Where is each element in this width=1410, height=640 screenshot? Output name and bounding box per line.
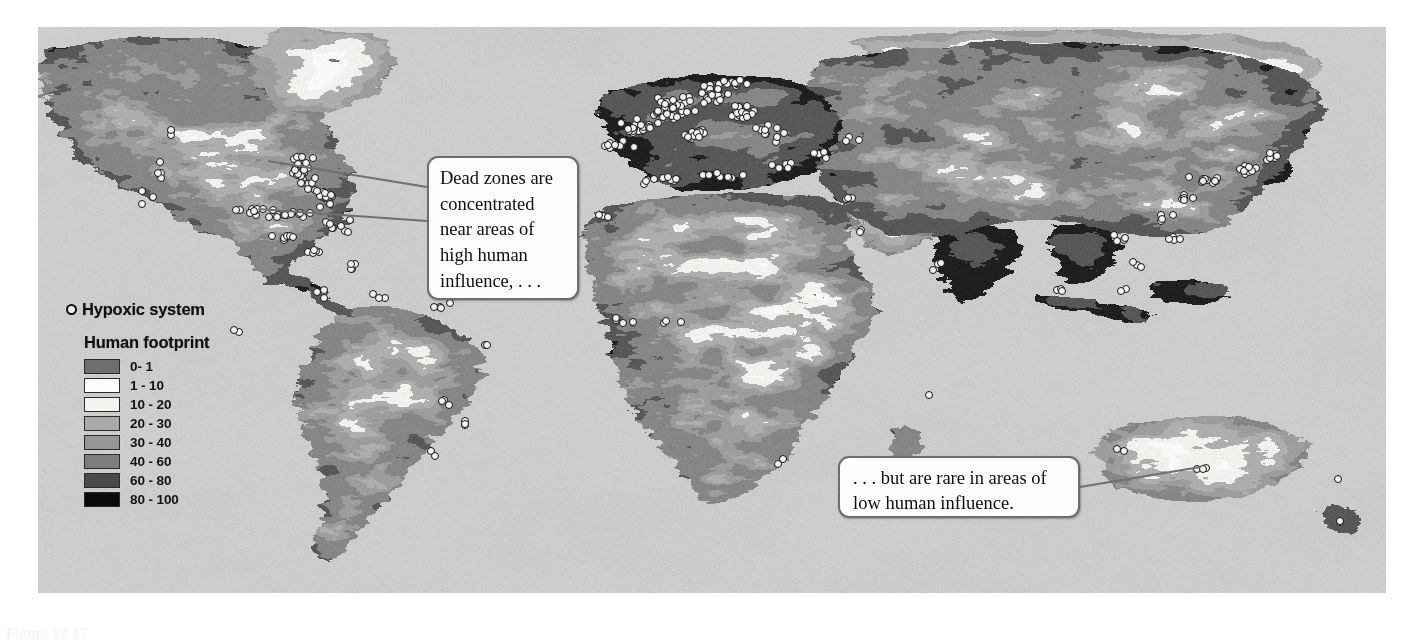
hypoxic-system-marker (1169, 211, 1177, 219)
hypoxic-system-marker (446, 299, 454, 307)
hypoxic-system-marker (844, 194, 852, 202)
hypoxic-system-marker (695, 133, 703, 141)
hypoxic-system-marker (664, 173, 672, 181)
hypoxic-system-marker (739, 171, 747, 179)
legend-class-label: 10 - 20 (130, 397, 171, 412)
hypoxic-system-marker (445, 401, 453, 409)
hypoxic-system-marker (700, 99, 708, 107)
legend-swatch (84, 378, 120, 393)
hypoxic-system-marker (629, 318, 637, 326)
hypoxic-system-marker (654, 119, 662, 127)
legend-class-label: 1 - 10 (130, 378, 164, 393)
hypoxic-system-marker (320, 294, 328, 302)
hypoxic-system-marker (289, 233, 297, 241)
hypoxic-system-marker (691, 107, 699, 115)
hypoxic-system-marker (780, 129, 788, 137)
hypoxic-system-icon (66, 304, 77, 315)
hypoxic-system-marker (752, 124, 760, 132)
hypoxic-system-marker (1189, 194, 1197, 202)
legend-swatch (84, 359, 120, 374)
legend-row: 0- 1 (84, 359, 281, 374)
low-influence-callout: . . . but are rare in areas of low human… (838, 456, 1080, 518)
hypoxic-system-marker (761, 126, 769, 134)
legend-class-label: 80 - 100 (130, 492, 179, 507)
hypoxic-system-marker (1158, 215, 1166, 223)
hypoxic-system-marker (604, 213, 612, 221)
hypoxic-system-marker (316, 203, 324, 211)
hypoxic-system-marker (654, 107, 662, 115)
hypoxic-system-marker (265, 213, 273, 221)
legend-class-label: 0- 1 (130, 359, 153, 374)
hypoxic-system-marker (138, 187, 146, 195)
hypoxic-system-marker (268, 232, 276, 240)
legend-swatch (84, 435, 120, 450)
hypoxic-system-marker (724, 173, 732, 181)
legend-row: 10 - 20 (84, 397, 281, 412)
hypoxic-system-marker (673, 113, 681, 121)
hypoxic-system-marker (662, 317, 670, 325)
hypoxic-system-marker (1185, 173, 1193, 181)
hypoxic-system-marker (431, 452, 439, 460)
legend-class-label: 30 - 40 (130, 435, 171, 450)
hypoxic-system-marker (642, 177, 650, 185)
hypoxic-system-marker (1266, 149, 1274, 157)
legend-row: 30 - 40 (84, 435, 281, 450)
hypoxic-system-marker (1113, 237, 1121, 245)
hypoxic-system-marker (1273, 152, 1281, 160)
hypoxic-system-marker (1137, 263, 1145, 271)
hypoxic-system-marker (232, 206, 240, 214)
figure-caption: Figure 12.17 (6, 625, 1006, 640)
hypoxic-system-marker (1334, 475, 1342, 483)
hypoxic-system-marker (705, 171, 713, 179)
legend-row: 20 - 30 (84, 416, 281, 431)
hypoxic-system-marker (1211, 177, 1219, 185)
hypoxic-system-marker (925, 391, 933, 399)
hypoxic-system-marker (779, 455, 787, 463)
legend-class-label: 20 - 30 (130, 416, 171, 431)
hypoxic-system-marker (313, 187, 321, 195)
figure-container: Hypoxic system Human footprint 0- 11 - 1… (0, 0, 1410, 640)
legend-class-label: 40 - 60 (130, 454, 171, 469)
hypoxic-system-marker (713, 169, 721, 177)
legend-hypoxic-label: Hypoxic system (82, 300, 205, 319)
legend-swatch (84, 416, 120, 431)
hypoxic-system-marker (156, 158, 164, 166)
hypoxic-system-marker (677, 318, 685, 326)
legend-swatch (84, 492, 120, 507)
hypoxic-system-marker (820, 148, 828, 156)
legend-class-list: 0- 11 - 1010 - 2020 - 3030 - 4040 - 6060… (66, 359, 281, 507)
hypoxic-system-marker (773, 124, 781, 132)
hypoxic-system-marker (1117, 287, 1125, 295)
hypoxic-system-marker (743, 80, 751, 88)
hypoxic-system-marker (430, 303, 438, 311)
hypoxic-system-marker (326, 200, 334, 208)
legend-row: 60 - 80 (84, 473, 281, 488)
hypoxic-system-marker (1180, 196, 1188, 204)
hypoxic-system-marker (716, 96, 724, 104)
hypoxic-system-marker (650, 175, 658, 183)
legend-hypoxic-system: Hypoxic system (66, 300, 281, 319)
hypoxic-system-marker (313, 288, 321, 296)
hypoxic-system-marker (346, 216, 354, 224)
legend-swatch (84, 454, 120, 469)
hypoxic-system-marker (743, 113, 751, 121)
hypoxic-system-marker (929, 266, 937, 274)
hypoxic-system-marker (731, 102, 739, 110)
hypoxic-system-marker (167, 126, 175, 134)
hypoxic-system-marker (311, 174, 319, 182)
hypoxic-system-marker (784, 164, 792, 172)
hypoxic-system-marker (683, 108, 691, 116)
hypoxic-system-marker (344, 228, 352, 236)
legend-class-label: 60 - 80 (130, 473, 171, 488)
hypoxic-system-marker (337, 222, 345, 230)
hypoxic-system-marker (483, 341, 491, 349)
hypoxic-system-marker (138, 200, 146, 208)
hypoxic-system-marker (937, 259, 945, 267)
hypoxic-system-marker (310, 246, 318, 254)
hypoxic-system-marker (663, 110, 671, 118)
hypoxic-system-marker (595, 211, 603, 219)
legend-swatch (84, 397, 120, 412)
hypoxic-system-marker (1058, 287, 1066, 295)
hypoxic-system-marker (698, 89, 706, 97)
hypoxic-system-marker (619, 319, 627, 327)
